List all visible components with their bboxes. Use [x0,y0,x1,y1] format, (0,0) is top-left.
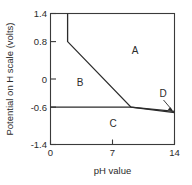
y-axis-title: Potential on H scale (volts) [4,23,15,136]
y-tick-label-0: 0 [42,74,47,85]
y-tick-label-neg-0-6: -0.6 [31,102,47,113]
y-tick-label-1-4: 1.4 [34,8,47,19]
x-tick-label-14: 14 [169,147,180,158]
region-label-b: B [77,77,84,88]
region-label-d: D [159,88,166,99]
region-label-a: A [132,45,139,56]
ph-potential-chart: 1.4 0.8 0 -0.6 -1.4 0 7 14 pH value Pote… [0,0,192,185]
x-tick-label-0: 0 [48,147,53,158]
chart-canvas: 1.4 0.8 0 -0.6 -1.4 0 7 14 pH value Pote… [0,0,192,185]
x-axis-title: pH value [94,165,132,176]
x-tick-label-7: 7 [110,147,115,158]
region-label-c: C [109,118,116,129]
y-tick-label-neg-1-4: -1.4 [31,139,47,150]
y-tick-label-0-8: 0.8 [34,36,47,47]
